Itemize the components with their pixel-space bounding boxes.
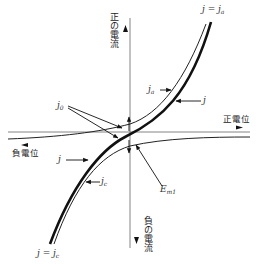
arrow-up-icon bbox=[123, 25, 128, 32]
arrow-right-icon bbox=[236, 126, 243, 130]
label-jc: jc bbox=[101, 177, 107, 187]
label-ja: ja bbox=[148, 85, 154, 95]
positive-potential-label: 正電位 bbox=[223, 115, 250, 124]
label-j-lower: j bbox=[58, 155, 61, 164]
axes bbox=[8, 18, 250, 248]
label-j-equals-ja: j = ja bbox=[202, 5, 224, 15]
label-j0: j0 bbox=[57, 101, 64, 111]
label-j-equals-jc: j = jc bbox=[37, 249, 59, 259]
polarization-diagram bbox=[0, 0, 259, 264]
label-em: Em1 bbox=[160, 185, 176, 195]
arrow-left-icon bbox=[21, 143, 28, 147]
negative-potential-label: 負電位 bbox=[12, 149, 39, 158]
arrow-down-icon bbox=[134, 237, 139, 244]
label-j-upper: j bbox=[203, 96, 206, 105]
total-current-curve bbox=[50, 22, 211, 244]
positive-current-label: 正の電流 bbox=[109, 12, 118, 48]
negative-current-label: 負の電流 bbox=[143, 216, 152, 252]
